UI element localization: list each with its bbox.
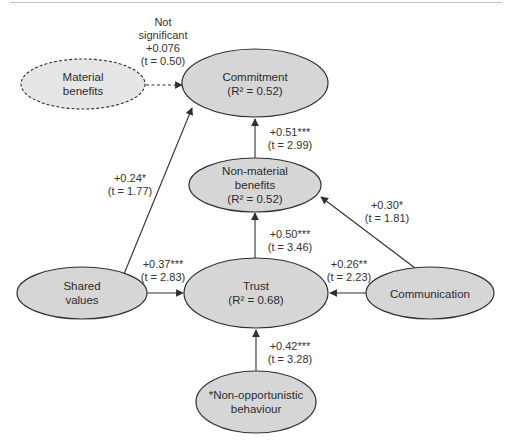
- node-label-non-opportunistic-behaviour: *Non-opportunistic behaviour: [209, 388, 304, 416]
- node-r-squared: (R² = 0.52): [222, 192, 288, 206]
- node-label-line: Commitment: [222, 70, 287, 84]
- node-label-line: benefits: [222, 178, 288, 192]
- node-label-line: *Non-opportunistic: [209, 388, 304, 402]
- edge-label-trust-to-nonmaterial: +0.50*** (t = 3.46): [268, 228, 312, 254]
- edge-coefficient: +0.26**: [327, 258, 371, 271]
- node-label-line: values: [63, 293, 100, 307]
- edge-label-shared-to-commitment: +0.24* (t = 1.77): [108, 172, 152, 198]
- edge-label-shared-to-trust: +0.37*** (t = 2.83): [141, 258, 185, 284]
- edge-coefficient: +0.37***: [141, 258, 185, 271]
- node-label-trust: Trust (R² = 0.68): [228, 279, 283, 307]
- edge-t-value: (t = 2.99): [268, 139, 312, 152]
- edge-t-value: (t = 0.50): [139, 55, 188, 68]
- node-label-line: Trust: [228, 279, 283, 293]
- edge-t-value: (t = 3.28): [268, 353, 312, 366]
- edge-coefficient: +0.30*: [365, 199, 409, 212]
- node-label-line: benefits: [63, 84, 104, 98]
- edge-coefficient: +0.42***: [268, 340, 312, 353]
- edge-coefficient: +0.51***: [268, 126, 312, 139]
- node-label-communication: Communication: [390, 287, 470, 301]
- edge-label-nonmaterial-to-commitment: +0.51*** (t = 2.99): [268, 126, 312, 152]
- node-label-line: Communication: [390, 287, 470, 301]
- node-label-non-material-benefits: Non-material benefits (R² = 0.52): [222, 164, 288, 206]
- node-label-shared-values: Shared values: [63, 279, 100, 307]
- edge-label-communication-to-trust: +0.26** (t = 2.23): [327, 258, 371, 284]
- edge-t-value: (t = 1.77): [108, 185, 152, 198]
- edge-coefficient: +0.24*: [108, 172, 152, 185]
- edge-t-value: (t = 3.46): [268, 241, 312, 254]
- node-label-line: behaviour: [209, 402, 304, 416]
- node-r-squared: (R² = 0.68): [228, 293, 283, 307]
- node-r-squared: (R² = 0.52): [222, 84, 287, 98]
- edge-label-material-to-commitment: Not significant +0.076 (t = 0.50): [139, 16, 188, 68]
- path-diagram: [0, 0, 510, 445]
- node-label-line: Material: [63, 70, 104, 84]
- edge-coefficient: +0.076: [139, 42, 188, 55]
- edge-coefficient: +0.50***: [268, 228, 312, 241]
- edge-t-value: (t = 2.23): [327, 271, 371, 284]
- edge-t-value: (t = 1.81): [365, 212, 409, 225]
- edge-label-line: significant: [139, 29, 188, 42]
- node-label-material-benefits: Material benefits: [63, 70, 104, 98]
- edge-t-value: (t = 2.83): [141, 271, 185, 284]
- edge-label-nonopportunistic-to-trust: +0.42*** (t = 3.28): [268, 340, 312, 366]
- node-label-line: Non-material: [222, 164, 288, 178]
- edge-label-communication-to-nonmaterial: +0.30* (t = 1.81): [365, 199, 409, 225]
- edge-label-line: Not: [139, 16, 188, 29]
- node-label-commitment: Commitment (R² = 0.52): [222, 70, 287, 98]
- node-label-line: Shared: [63, 279, 100, 293]
